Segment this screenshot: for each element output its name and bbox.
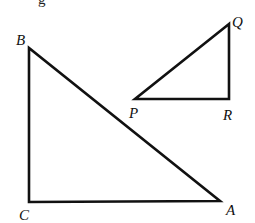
vertex-label-c: C [19,207,30,223]
similar-triangles-diagram: g B C A Q P R [0,0,255,223]
vertex-label-a: A [225,202,236,218]
triangle-abc: B C A [16,32,236,223]
vertex-label-r: R [222,107,232,123]
vertex-label-q: Q [232,14,243,30]
vertex-label-b: B [16,32,25,48]
triangle-abc-outline [29,48,220,202]
vertex-label-p: P [128,105,138,121]
cropped-text-fragment: g [38,0,46,7]
triangle-pqr: Q P R [128,14,243,123]
triangle-pqr-outline [135,24,229,99]
